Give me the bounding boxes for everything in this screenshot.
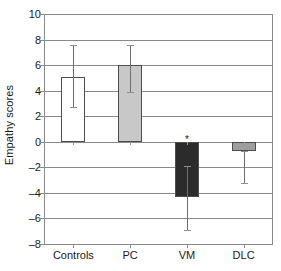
gridline (45, 40, 272, 41)
empathy-scores-bar-chart: Empathy scores 1086420–2–4–6–8 * Control… (0, 0, 281, 271)
y-axis-tick-mark (39, 40, 44, 41)
error-bar-controls (73, 45, 74, 108)
y-axis-tick-mark (39, 142, 44, 143)
y-axis-tick-mark (39, 91, 44, 92)
error-bar-cap (127, 92, 134, 93)
x-axis-tick-mark (73, 244, 74, 248)
error-bar-cap (70, 45, 77, 46)
y-axis-tick-mark (39, 244, 44, 245)
gridline (45, 244, 272, 245)
error-bar-cap (184, 166, 191, 167)
plot-area: * (45, 14, 272, 244)
y-axis-title-container: Empathy scores (0, 0, 18, 250)
x-axis-tick-mark (130, 244, 131, 248)
x-axis-tick-mark (187, 244, 188, 248)
y-axis-tick-mark (39, 65, 44, 66)
gridline (45, 14, 272, 15)
error-bar-cap (184, 230, 191, 231)
plot-right-spine (272, 14, 273, 245)
zero-line-tick (130, 142, 131, 145)
y-axis-tick-labels: 1086420–2–4–6–8 (18, 0, 44, 271)
zero-line-tick (244, 142, 245, 145)
x-axis-category-label-vm: VM (179, 249, 196, 261)
x-axis-category-label-dlc: DLC (233, 249, 255, 261)
gridline (45, 167, 272, 168)
gridline (45, 65, 272, 66)
gridline (45, 218, 272, 219)
error-bar-cap (241, 183, 248, 184)
error-bar-cap (70, 107, 77, 108)
y-axis-tick-mark (39, 193, 44, 194)
error-bar-cap (241, 151, 248, 152)
x-axis-category-label-controls: Controls (53, 249, 94, 261)
y-axis-tick-mark (39, 14, 44, 15)
zero-line-tick (73, 142, 74, 145)
y-axis-tick-mark (39, 167, 44, 168)
y-axis-tick-mark (39, 116, 44, 117)
x-axis-category-label-pc: PC (122, 249, 137, 261)
y-axis-title: Empathy scores (3, 85, 15, 165)
gridline (45, 193, 272, 194)
significance-marker: * (185, 135, 189, 145)
error-bar-dlc (244, 151, 245, 183)
y-axis-tick-mark (39, 218, 44, 219)
error-bar-cap (127, 45, 134, 46)
x-axis-tick-mark (244, 244, 245, 248)
error-bar-pc (130, 45, 131, 92)
error-bar-vm (187, 166, 188, 230)
